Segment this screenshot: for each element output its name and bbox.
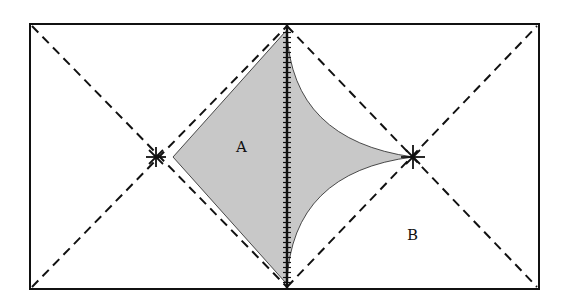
label-region-b: B — [407, 226, 418, 244]
center-hatched-line — [283, 24, 291, 289]
left-star-marker — [146, 147, 166, 167]
penrose-diagram: A B — [0, 0, 570, 302]
label-region-a: A — [235, 138, 247, 156]
shaded-region-a — [173, 32, 413, 282]
